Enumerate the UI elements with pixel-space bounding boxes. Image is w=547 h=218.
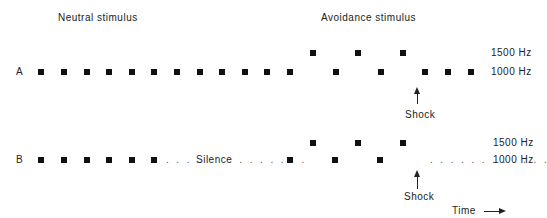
row-b-1000hz-tone-square bbox=[84, 157, 90, 163]
time-arrow-icon bbox=[484, 211, 500, 212]
row-a-1000hz-tone-square bbox=[219, 69, 225, 75]
row-a-1000hz-tone-square bbox=[378, 69, 384, 75]
row-a-shock-arrow-icon bbox=[417, 92, 418, 104]
row-b-1000hz-tone-square bbox=[61, 157, 67, 163]
row-b-1500hz-tone-square bbox=[310, 140, 316, 146]
row-a-shock-label: Shock bbox=[405, 110, 435, 120]
row-a-1000hz-tone-square bbox=[264, 69, 270, 75]
row-a-1000hz-label: 1000 Hz bbox=[491, 67, 532, 77]
row-b-label: B bbox=[16, 155, 23, 165]
row-b-1000hz-tone-square bbox=[377, 157, 383, 163]
row-a-1000hz-tone-square bbox=[174, 69, 180, 75]
row-a-1000hz-tone-square bbox=[84, 69, 90, 75]
row-b-1000hz-tone-square bbox=[151, 157, 157, 163]
row-a-1500hz-tone-square bbox=[310, 50, 316, 56]
row-b-1000hz-tone-square bbox=[106, 157, 112, 163]
row-b-1000hz-tone-square bbox=[129, 157, 135, 163]
row-a-1500hz-tone-square bbox=[355, 50, 361, 56]
row-a-1000hz-tone-square bbox=[242, 69, 248, 75]
neutral-stimulus-heading: Neutral stimulus bbox=[58, 13, 138, 23]
row-b-1000hz-label: 1000 Hz bbox=[493, 155, 534, 165]
row-a-1000hz-tone-square bbox=[445, 69, 451, 75]
avoidance-stimulus-heading: Avoidance stimulus bbox=[321, 13, 416, 23]
row-a-1500hz-label: 1500 Hz bbox=[491, 48, 532, 58]
row-a-1000hz-tone-square bbox=[129, 69, 135, 75]
row-a-1000hz-tone-square bbox=[106, 69, 112, 75]
row-a-1000hz-tone-square bbox=[151, 69, 157, 75]
time-label: Time bbox=[452, 206, 476, 216]
time-arrow-head-icon bbox=[499, 208, 506, 214]
row-b-1500hz-label: 1500 Hz bbox=[493, 138, 534, 148]
row-a-1000hz-tone-square bbox=[333, 69, 339, 75]
row-b-silence-dots-mid: . . . . . . . . bbox=[229, 155, 307, 165]
row-a-1000hz-tone-square bbox=[287, 69, 293, 75]
row-b-1500hz-tone-square bbox=[355, 140, 361, 146]
row-b-shock-arrow-icon bbox=[417, 175, 418, 189]
row-a-1000hz-tone-square bbox=[422, 69, 428, 75]
row-a-1000hz-tone-square bbox=[197, 69, 203, 75]
row-b-silence-label: Silence bbox=[196, 155, 232, 165]
row-a-1000hz-tone-square bbox=[468, 69, 474, 75]
row-b-shock-label: Shock bbox=[404, 192, 434, 202]
row-b-1500hz-tone-square bbox=[400, 140, 406, 146]
row-a-1000hz-tone-square bbox=[38, 69, 44, 75]
row-a-label: A bbox=[16, 67, 23, 77]
row-a-1000hz-tone-square bbox=[61, 69, 67, 75]
row-b-1000hz-tone-square bbox=[332, 157, 338, 163]
row-a-1500hz-tone-square bbox=[400, 50, 406, 56]
row-b-1000hz-tone-square bbox=[38, 157, 44, 163]
